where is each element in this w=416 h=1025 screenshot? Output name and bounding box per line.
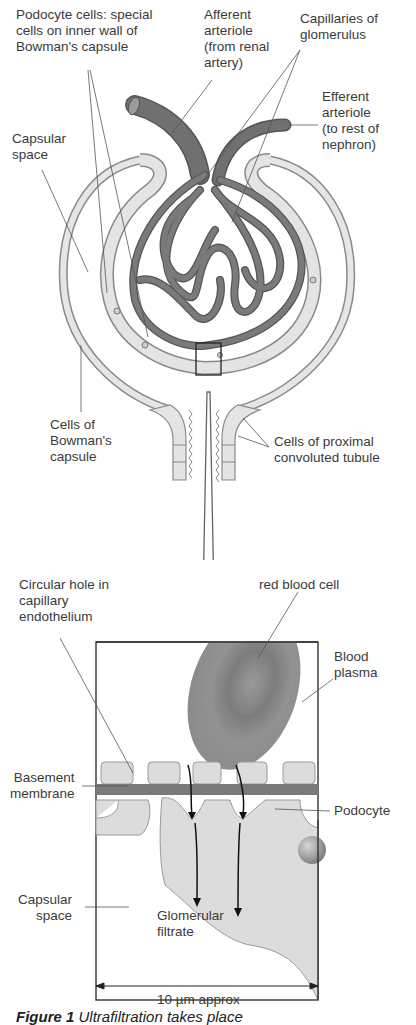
label-glomerular-filtrate: Glomerular filtrate <box>157 908 224 940</box>
label-podocyte-cells: Podocyte cells: special cells on inner w… <box>16 7 153 55</box>
label-scale: 10 µm approx <box>157 992 240 1008</box>
figure-caption: Figure 1 Ultrafiltration takes place <box>16 1008 243 1025</box>
label-capsular-space: Capsular space <box>12 131 66 163</box>
label-podocyte: Podocyte <box>334 803 390 819</box>
podocyte-nucleus <box>298 836 326 864</box>
glomerulus-capillaries <box>126 96 301 346</box>
label-red-blood-cell: red blood cell <box>259 577 339 593</box>
label-capsular-space-detail: Capsular space <box>18 892 72 924</box>
endothelium-cells <box>101 762 315 784</box>
caption-text: Ultrafiltration takes place <box>79 1008 243 1025</box>
label-proximal-cells: Cells of proximal convoluted tubule <box>274 434 380 466</box>
label-basement-membrane: Basement membrane <box>10 770 75 802</box>
basement-membrane <box>96 784 318 795</box>
label-efferent-arteriole: Efferent arteriole (to rest of nephron) <box>322 89 379 153</box>
label-afferent-arteriole: Afferent arteriole (from renal artery) <box>204 7 269 71</box>
label-capillaries: Capillaries of glomerulus <box>300 11 378 43</box>
label-circular-hole: Circular hole in capillary endothelium <box>19 577 109 625</box>
label-blood-plasma: Blood plasma <box>334 649 378 681</box>
label-bowmans-cells: Cells of Bowman's capsule <box>50 417 112 465</box>
caption-figure-number: Figure 1 <box>16 1008 74 1025</box>
